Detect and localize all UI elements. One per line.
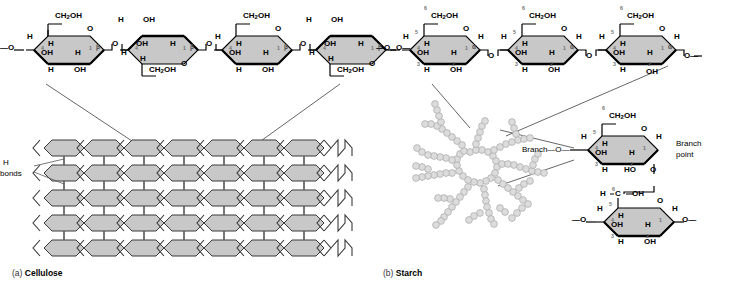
starch-lower-c1h: H (672, 205, 678, 213)
starch-r1-num1: 1 (465, 46, 468, 51)
starch-r2-num4: 4 (515, 46, 518, 51)
cellulose-r1-c2oh: OH (74, 66, 86, 74)
starch-r2-num3: 3 (515, 62, 518, 67)
cellulose-r1-c6: CH2OH (55, 12, 82, 21)
starch-lower-c6c: C (615, 190, 621, 198)
starch-lower-c6h: H (600, 190, 606, 198)
amylopectin-cluster (413, 101, 548, 229)
cellulose-right-terminal: O— (396, 44, 410, 52)
cellulose-r2-ring-o: O (181, 60, 187, 68)
starch-r1-h: H (424, 40, 430, 48)
starch-lower-c2h: H (645, 221, 651, 229)
starch-lower-num5: 5 (609, 202, 612, 207)
cellulose-r2-num1: 1 (183, 46, 186, 51)
starch-branch-c1-o: O (650, 166, 656, 174)
starch-r1-c2oh: OH (450, 66, 462, 74)
starch-r1-ring-o: O (463, 25, 469, 33)
starch-chain (390, 24, 702, 64)
starch-r1-h3: H (424, 66, 430, 74)
starch-r2-alpha: α (570, 44, 574, 50)
starch-r1-num6: 6 (424, 6, 427, 11)
cellulose-r2-beta: β (190, 44, 194, 50)
h-bonds-label-line1: H (3, 158, 9, 168)
starch-right-terminal: O— (684, 52, 698, 60)
cellulose-bridge-o-2: O (206, 40, 212, 48)
starch-r2-num6: 6 (522, 6, 525, 11)
h-bonds-label-line2: bonds (0, 169, 22, 179)
starch-lower-num4: 4 (611, 218, 614, 223)
starch-branch-c2ho: HO (624, 166, 636, 174)
starch-lower-h3: H (618, 238, 624, 246)
starch-r3-num3: 3 (613, 62, 616, 67)
starch-r3-num4: 4 (613, 46, 616, 51)
starch-lower-num3: 3 (611, 234, 614, 239)
cellulose-r3-beta: β (284, 44, 288, 50)
cellulose-r1-h3: H (48, 66, 54, 74)
caption-starch-name: Starch (396, 268, 422, 278)
starch-branch-h: H (602, 140, 608, 148)
starch-r1-c6: CH2OH (431, 12, 458, 21)
starch-r1-c1h: H (478, 33, 484, 41)
cellulose-r3-c2oh: OH (262, 66, 274, 74)
cellulose-r3-h3: H (236, 66, 242, 74)
starch-r2-num2: 2 (550, 62, 553, 67)
cellulose-microfibril (33, 140, 352, 256)
caption-cellulose-tag: (a) (12, 268, 22, 278)
cellulose-r1-h: H (48, 40, 54, 48)
cellulose-left-terminal: —O (0, 44, 14, 52)
starch-branch-num6: 6 (602, 106, 605, 111)
starch-branch-c2h: H (629, 149, 635, 157)
cellulose-r4-c5h: H (309, 49, 315, 57)
starch-bridge-o-1: O (488, 52, 494, 60)
starch-r3-h3: H (620, 66, 626, 74)
starch-lower-c6oh: OH (632, 190, 644, 198)
starch-r2-num1: 1 (563, 46, 566, 51)
starch-bridge-o-2: O (586, 52, 592, 60)
starch-branch-num5: 5 (593, 130, 596, 135)
starch-left-terminal: —O (376, 44, 390, 52)
cellulose-r4-h: H (328, 55, 334, 63)
starch-r3-c2oh: OH (646, 68, 658, 76)
starch-branch-num2: 2 (630, 162, 633, 167)
starch-branch-num1: 1 (643, 146, 646, 151)
starch-r3-c5h: H (599, 33, 605, 41)
cellulose-r2-h2: H (170, 40, 176, 48)
cellulose-r4-num4: 4 (323, 46, 326, 51)
starch-lower-num2: 2 (646, 234, 649, 239)
starch-r2-ring-o: O (561, 25, 567, 33)
cellulose-r1-num1: 1 (89, 46, 92, 51)
cellulose-r4-h-top: H (306, 16, 312, 24)
cellulose-r1-num4: 4 (41, 46, 44, 51)
cellulose-r1-beta: β (96, 44, 100, 50)
starch-r3-num1: 1 (661, 46, 664, 51)
starch-r2-h: H (522, 40, 528, 48)
starch-r2-num5: 5 (513, 30, 516, 35)
cellulose-r3-c6: CH2OH (243, 12, 270, 21)
starch-r2-c2oh: OH (548, 66, 560, 74)
starch-lower-right-terminal: O— (682, 216, 696, 224)
cellulose-r4-oh-top: OH (331, 16, 343, 24)
starch-branch-num3: 3 (595, 162, 598, 167)
cellulose-r1-c2h: H (75, 49, 81, 57)
starch-r3-h: H (620, 40, 626, 48)
starch-r1-alpha: α (472, 44, 476, 50)
starch-r1-num5: 5 (415, 30, 418, 35)
starch-r1-num4: 4 (417, 46, 420, 51)
cellulose-r3-c5h: H (215, 33, 221, 41)
starch-branch-c6: CH2OH (609, 112, 636, 121)
starch-r3-num6: 6 (620, 6, 623, 11)
cellulose-r3-ring-o: O (275, 25, 281, 33)
starch-branch-c5h: H (581, 133, 587, 141)
starch-r2-h3: H (522, 66, 528, 74)
starch-lower-c2oh: OH (644, 238, 656, 246)
cellulose-r2-h: H (140, 55, 146, 63)
starch-r3-num2: 2 (648, 62, 651, 67)
starch-r3-ring-o: O (659, 25, 665, 33)
starch-r1-num3: 3 (417, 62, 420, 67)
cellulose-r3-num4: 4 (229, 46, 232, 51)
starch-r2-c2h: H (549, 49, 555, 57)
starch-r2-c1h: H (576, 33, 582, 41)
cellulose-r3-c2h: H (263, 49, 269, 57)
caption-cellulose-name: Cellulose (25, 268, 63, 278)
cellulose-leader-lines (46, 84, 340, 143)
